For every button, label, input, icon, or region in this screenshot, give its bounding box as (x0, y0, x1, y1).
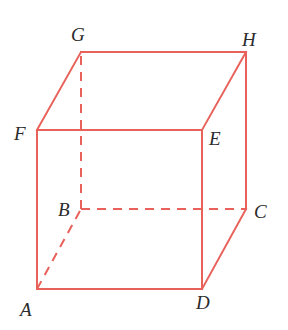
vertex-labels: A B C D E F G H (13, 24, 267, 320)
vertex-label-a: A (18, 299, 32, 320)
vertex-label-e: E (208, 128, 221, 149)
cube-edges (37, 52, 246, 289)
vertex-label-c: C (254, 201, 267, 222)
vertex-label-f: F (13, 123, 26, 144)
edge-fg (37, 52, 81, 130)
edge-ab-hidden (37, 209, 81, 289)
cube-svg: A B C D E F G H (0, 0, 288, 330)
vertex-label-g: G (71, 24, 85, 45)
edge-he (202, 52, 246, 130)
vertex-label-b: B (58, 199, 70, 220)
cube-diagram: A B C D E F G H (0, 0, 288, 330)
vertex-label-d: D (195, 292, 210, 313)
edge-cd (202, 209, 246, 289)
vertex-label-h: H (241, 29, 257, 50)
